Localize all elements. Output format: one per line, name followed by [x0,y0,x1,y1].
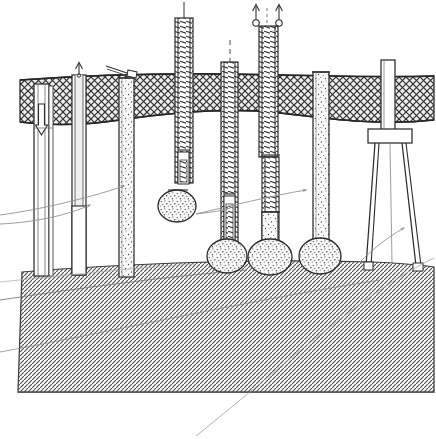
expanded-base-bulb [299,238,341,274]
expanded-base-bulb [158,190,196,222]
leader-line-mid [196,190,306,214]
leader-line-left-upper [0,186,124,215]
pile-6-cage-withdraw-twin[interactable] [248,5,292,276]
pile-2-casing-withdraw[interactable] [72,63,86,276]
spreader-plate [368,129,412,143]
tripod-legs [364,143,423,271]
figure-canvas: Bored cast-in-place pile construction se… [0,0,436,439]
expanded-base-bulb [248,239,292,275]
pile-1-casing-drive[interactable] [33,84,53,276]
pile-construction-sequence-drawing: Bored cast-in-place pile construction se… [0,0,436,439]
double-up-arrow-pulley-icon [253,5,283,27]
expanded-base-bulb [207,239,247,273]
lower-bearing-stratum [0,261,434,392]
